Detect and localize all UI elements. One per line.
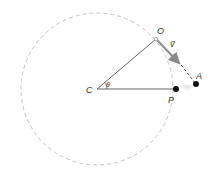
- tangent-dashed-line: [178, 61, 196, 84]
- label-a: A: [195, 71, 202, 81]
- label-theta: θ: [106, 81, 110, 88]
- circular-motion-diagram: C θ O v⃗ P A: [0, 0, 208, 169]
- label-o: O: [157, 26, 164, 36]
- velocity-vector: [157, 40, 179, 63]
- point-o-marker: [154, 37, 158, 41]
- point-p-dot: [173, 86, 179, 92]
- label-c: C: [86, 85, 93, 95]
- label-velocity: v⃗: [170, 40, 175, 49]
- point-a-dot: [193, 81, 199, 87]
- label-p: P: [168, 95, 174, 105]
